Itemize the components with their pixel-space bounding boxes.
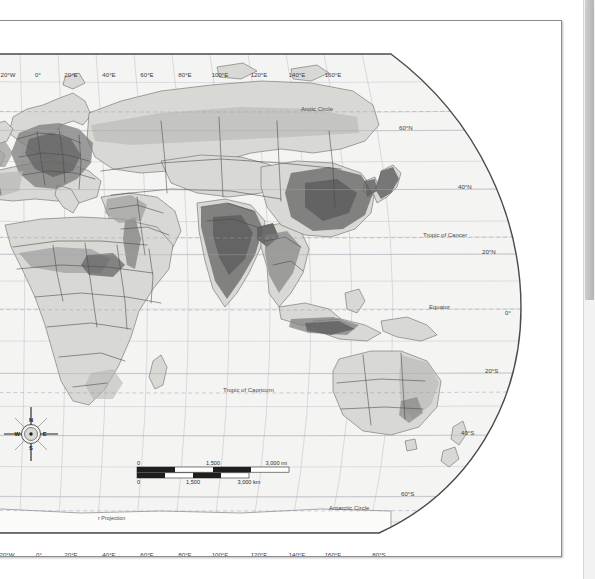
longitude-label-bottom: 40°E	[102, 551, 115, 556]
longitude-label-top: 100°E	[212, 71, 229, 78]
scale-label-miles: 3,000 mi	[266, 460, 287, 466]
longitude-label-top: 140°E	[289, 71, 306, 78]
longitude-label-top: 160°E	[325, 71, 342, 78]
latitude-label: 0°	[505, 309, 511, 316]
reference-line-label: Arctic Circle	[301, 106, 334, 112]
vertical-scrollbar[interactable]	[583, 0, 595, 579]
longitude-label-bottom: 140°E	[289, 551, 306, 556]
scrollbar-thumb[interactable]	[585, 0, 594, 300]
reference-line-label: Tropic of Cancer	[423, 232, 467, 238]
longitude-label-bottom: 120°E	[251, 551, 268, 556]
compass-west-label: W	[15, 431, 21, 437]
latitude-label: 40°S	[461, 429, 474, 436]
reference-line-label: Tropic of Capricorn	[223, 387, 274, 393]
reference-line-label: Equator	[429, 304, 450, 310]
compass-north-label: N	[29, 417, 33, 423]
compass-south-label: S	[29, 445, 33, 451]
document-viewer: 40°W20°W0°20°E40°E60°E80°E100°E120°E140°…	[0, 0, 595, 579]
longitude-label-bottom: 0°	[36, 551, 42, 556]
longitude-label-bottom: 80°S	[372, 551, 385, 556]
longitude-label-bottom: 160°E	[325, 551, 342, 556]
projection-label: r Projection	[98, 515, 125, 521]
longitude-labels-bottom: 40°W20°W0°20°E40°E60°E80°E100°E120°E140°…	[0, 551, 386, 556]
longitude-label-bottom: 60°E	[140, 551, 153, 556]
scale-label-miles: 0	[137, 460, 140, 466]
longitude-label-top: 40°E	[102, 71, 115, 78]
longitude-label-bottom: 20°E	[64, 551, 77, 556]
reference-line-label: Antarctic Circle	[329, 505, 370, 511]
longitude-label-top: 0°	[35, 71, 41, 78]
longitude-label-bottom: 80°E	[178, 551, 191, 556]
latitude-label: 60°S	[401, 490, 414, 497]
longitude-label-top: 60°E	[140, 71, 153, 78]
scale-label-miles: 1,500	[206, 460, 220, 466]
latitude-label: 20°S	[485, 367, 498, 374]
latitude-label: 40°N	[458, 183, 472, 190]
latitude-label: 20°N	[482, 248, 496, 255]
longitude-label-top: 120°E	[251, 71, 268, 78]
map-page: 40°W20°W0°20°E40°E60°E80°E100°E120°E140°…	[0, 20, 562, 557]
compass-east-label: E	[43, 431, 47, 437]
longitude-label-bottom: 20°W	[0, 551, 15, 556]
scale-label-km: 0	[137, 479, 140, 485]
longitude-label-top: 20°W	[1, 71, 16, 78]
longitude-label-top: 20°E	[64, 71, 77, 78]
map-svg: 40°W20°W0°20°E40°E60°E80°E100°E120°E140°…	[0, 21, 561, 556]
scale-label-km: 3,000 km	[237, 479, 260, 485]
longitude-label-bottom: 100°E	[212, 551, 229, 556]
longitude-label-top: 80°E	[178, 71, 191, 78]
scale-label-km: 1,500	[186, 479, 200, 485]
latitude-label: 60°N	[399, 124, 413, 131]
world-map: 40°W20°W0°20°E40°E60°E80°E100°E120°E140°…	[0, 21, 561, 556]
